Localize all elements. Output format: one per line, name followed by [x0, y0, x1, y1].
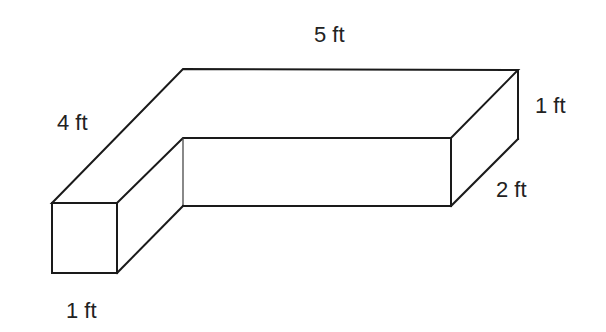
label-front-width: 1 ft	[66, 298, 97, 323]
short-arm-bottom-diagonal	[117, 206, 183, 273]
front-end-face	[52, 203, 117, 273]
label-top-length: 5 ft	[314, 22, 345, 47]
label-height: 1 ft	[535, 93, 566, 118]
top-face	[52, 69, 518, 203]
label-left-length: 4 ft	[57, 110, 88, 135]
label-right-depth: 2 ft	[496, 177, 527, 202]
l-shaped-prism-diagram: 5 ft 4 ft 1 ft 2 ft 1 ft	[0, 0, 606, 332]
